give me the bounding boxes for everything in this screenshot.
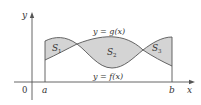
- lower-curve-label: y = f(x): [92, 72, 123, 81]
- x-axis-label: x: [187, 85, 192, 95]
- svg-text:1: 1: [58, 48, 62, 54]
- y-axis-label: y: [21, 10, 28, 20]
- svg-text:3: 3: [158, 48, 162, 54]
- bound-label-a: a: [42, 85, 47, 95]
- y-axis-arrow-icon: [30, 12, 34, 18]
- origin-label: 0: [22, 85, 27, 95]
- area-between-curves-diagram: y x 0 a b y = g(x) y = f(x) S 1 S 2 S 3: [0, 0, 201, 105]
- x-axis-arrow-icon: [189, 80, 195, 84]
- svg-text:2: 2: [113, 52, 117, 58]
- bound-label-b: b: [169, 85, 175, 95]
- upper-curve-label: y = g(x): [92, 27, 125, 36]
